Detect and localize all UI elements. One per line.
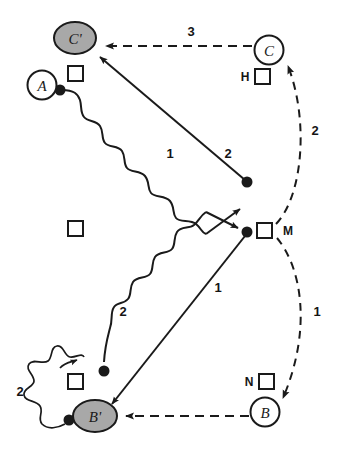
dot-m	[242, 227, 253, 238]
edge-label-2-dashed-right-upper: 2	[311, 123, 318, 138]
node-c-prime[interactable]: C'	[54, 22, 96, 54]
edge-label-1-dashed-right-lower: 1	[313, 304, 320, 319]
diagram-svg: C' A C B' B H M N 3 1 2 2 2 1 1 2	[0, 0, 346, 454]
square-tag-m: M	[283, 224, 293, 238]
dot-wave-lower-end	[99, 366, 110, 377]
square-tag-n: N	[245, 375, 254, 389]
edge-m-dashed-to-b	[277, 238, 301, 398]
node-a-label: A	[36, 78, 47, 94]
edge-m-to-cprime	[100, 57, 245, 180]
node-b-label: B	[260, 405, 269, 421]
node-b[interactable]: B	[251, 398, 280, 427]
edge-label-3-top: 3	[187, 24, 194, 39]
square-m[interactable]	[257, 223, 272, 238]
diagram-canvas: C' A C B' B H M N 3 1 2 2 2 1 1 2	[0, 0, 346, 454]
square-tag-h: H	[241, 70, 250, 84]
square-a[interactable]	[68, 66, 83, 81]
edge-label-2-star-left: 2	[16, 384, 23, 399]
node-a[interactable]: A	[28, 71, 57, 100]
square-h[interactable]	[255, 69, 270, 84]
edge-label-2-wave-lower: 2	[119, 304, 126, 319]
node-c-prime-label: C'	[68, 31, 82, 47]
node-b-prime-label: B'	[89, 409, 102, 425]
node-b-prime[interactable]: B'	[73, 400, 117, 432]
node-c-label: C	[264, 43, 275, 59]
node-c[interactable]: C	[255, 36, 284, 65]
square-bottom-left[interactable]	[68, 374, 83, 389]
edge-m-to-bprime	[112, 236, 245, 404]
edge-label-1-wave-upper: 1	[166, 146, 173, 161]
dot-upper	[242, 177, 253, 188]
square-n[interactable]	[259, 374, 274, 389]
edge-a-wave-to-m	[62, 90, 240, 234]
edge-m-dashed-to-c	[276, 66, 301, 224]
square-middle[interactable]	[68, 221, 83, 236]
edge-label-1-diag-lower: 1	[214, 280, 221, 295]
edge-label-2-diag-upper: 2	[224, 146, 231, 161]
